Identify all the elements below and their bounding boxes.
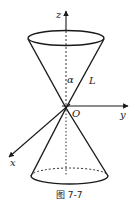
bottom-ellipse-front — [31, 176, 108, 184]
x-axis-label: x — [10, 157, 16, 168]
bottom-ellipse-back — [31, 168, 108, 176]
cone-diagram: z y x O α L 图 7-7 — [0, 0, 137, 202]
x-axis-line — [9, 104, 70, 157]
y-axis-label: y — [119, 109, 126, 120]
origin-label: O — [72, 108, 80, 119]
angle-alpha-label: α — [67, 74, 74, 85]
figure-caption: 图 7-7 — [56, 190, 83, 200]
generatrix-L-label: L — [88, 75, 96, 86]
lower-left-generatrix — [31, 108, 66, 176]
upper-left-generatrix — [28, 39, 66, 108]
z-axis-label: z — [55, 9, 62, 20]
